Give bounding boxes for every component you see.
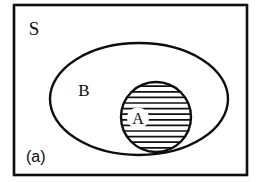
venn-diagram-canvas: S B A (a): [0, 0, 257, 182]
set-b-label: B: [78, 81, 89, 100]
venn-diagram-figure: S B A (a): [0, 0, 257, 182]
set-a-label: A: [132, 110, 144, 127]
figure-caption: (a): [26, 148, 46, 165]
universal-set-label: S: [29, 18, 40, 39]
